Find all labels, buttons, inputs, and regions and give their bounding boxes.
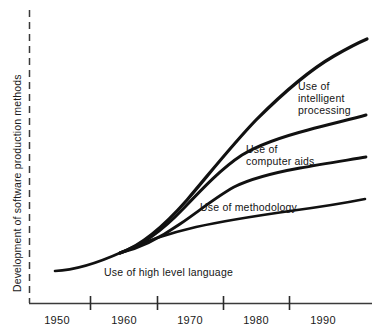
chart-background <box>0 0 379 335</box>
series-label-methodology: Use of methodology <box>200 201 298 213</box>
series-label-computer-aids-line2: computer aids <box>246 155 315 167</box>
y-axis-title: Development of software production metho… <box>11 74 23 292</box>
x-tick-label-1950: 1950 <box>44 314 70 326</box>
series-label-intelligent-line3: processing <box>298 104 351 116</box>
chart-container: Development of software production metho… <box>0 0 379 335</box>
series-label-high-level-language: Use of high level language <box>104 266 233 278</box>
x-tick-label-1970: 1970 <box>177 314 203 326</box>
series-label-intelligent-line1: Use of <box>298 80 330 92</box>
series-label-intelligent-line2: intelligent <box>298 92 345 104</box>
series-label-computer-aids-line1: Use of <box>246 143 278 155</box>
x-tick-label-1990: 1990 <box>310 314 336 326</box>
x-tick-label-1980: 1980 <box>243 314 269 326</box>
software-methods-growth-chart: Development of software production metho… <box>0 0 379 335</box>
x-tick-label-1960: 1960 <box>111 314 137 326</box>
